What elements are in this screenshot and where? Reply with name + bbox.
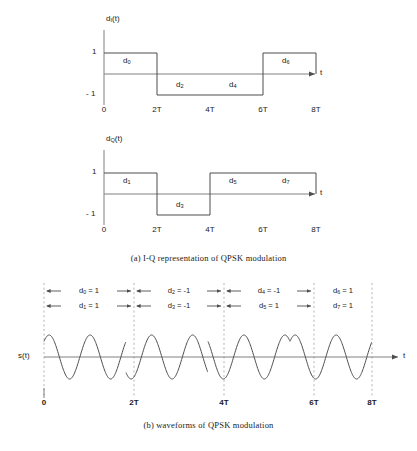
di-xtick-6t: 6T xyxy=(253,105,273,114)
annotation-d6: d6 = 1 xyxy=(315,286,371,295)
qpsk-figure: dI(t) t 1 - 1 0 2T 4T 6T 8T d0 d2 d4 d6 … xyxy=(0,0,417,451)
dq-ytick-pos1: 1 xyxy=(92,167,96,176)
di-block-label-d6: d6 xyxy=(282,56,290,65)
annotation-d4: d4 = -1 xyxy=(241,286,297,295)
caption-b: (b) waveforms of QPSK modulation xyxy=(0,420,417,430)
symbol-boundary-lines xyxy=(44,283,372,396)
st-y-axis-label: s(t) xyxy=(18,351,30,360)
panel-di xyxy=(104,30,316,105)
dq-xtick-0: 0 xyxy=(94,225,114,234)
di-x-axis-label: t xyxy=(320,68,322,77)
di-axis-label: dI(t) xyxy=(106,14,120,23)
st-xtick-2t: 2T xyxy=(124,398,144,407)
annotation-d5: d5 = 1 xyxy=(241,301,297,310)
dq-block-label-d1: d1 xyxy=(123,176,131,185)
annotation-d2: d2 = -1 xyxy=(151,286,207,295)
annotation-d7: d7 = 1 xyxy=(315,301,371,310)
st-xtick-8t: 8T xyxy=(362,398,382,407)
annotation-d1: d1 = 1 xyxy=(61,301,117,310)
dq-x-axis-label: t xyxy=(320,188,322,197)
annotation-d0: d0 = 1 xyxy=(61,286,117,295)
st-x-axis-label: t xyxy=(403,351,405,360)
panel-st xyxy=(44,335,398,379)
di-block-label-d2: d2 xyxy=(176,80,184,89)
dq-ytick-neg1: - 1 xyxy=(86,209,95,218)
dq-xtick-2t: 2T xyxy=(147,225,167,234)
dq-block-label-d3: d3 xyxy=(176,200,184,209)
dq-xtick-4t: 4T xyxy=(200,225,220,234)
di-xtick-0: 0 xyxy=(94,105,114,114)
di-xtick-8t: 8T xyxy=(306,105,326,114)
dq-xtick-6t: 6T xyxy=(253,225,273,234)
di-ytick-pos1: 1 xyxy=(92,47,96,56)
st-xtick-0: 0 xyxy=(34,398,54,407)
di-xtick-2t: 2T xyxy=(147,105,167,114)
dq-axis-label: dQ(t) xyxy=(106,134,122,143)
di-xtick-4t: 4T xyxy=(200,105,220,114)
caption-a: (a) I-Q representation of QPSK modulatio… xyxy=(0,253,417,263)
di-block-label-d4: d4 xyxy=(229,80,237,89)
panel-dq xyxy=(104,150,316,225)
st-xtick-6t: 6T xyxy=(304,398,324,407)
annotation-d3: d3 = -1 xyxy=(151,301,207,310)
dq-block-label-d5: d5 xyxy=(229,176,237,185)
dq-xtick-8t: 8T xyxy=(306,225,326,234)
di-block-label-d0: d0 xyxy=(123,56,131,65)
dq-block-label-d7: d7 xyxy=(282,176,290,185)
st-xtick-4t: 4T xyxy=(214,398,234,407)
di-ytick-neg1: - 1 xyxy=(86,89,95,98)
